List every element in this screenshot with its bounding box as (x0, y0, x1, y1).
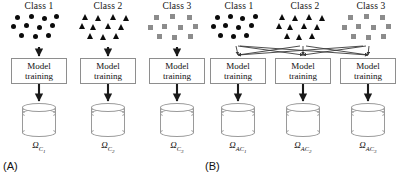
model-box-line2: training (289, 71, 317, 82)
circle-marker (50, 23, 55, 28)
model-box-line1: Model (291, 61, 315, 72)
class-cluster-1 (9, 13, 73, 47)
circle-marker (33, 34, 38, 39)
square-marker (193, 24, 198, 29)
circle-marker (244, 33, 249, 38)
triangle-marker (276, 23, 282, 29)
circle-marker (29, 14, 34, 19)
class-cluster-3 (341, 13, 404, 47)
class-title-2: Class 2 (77, 1, 139, 12)
model-training-box: Model training (11, 58, 67, 84)
omega-subsub: 3 (181, 149, 184, 154)
circle-marker (19, 33, 24, 38)
triangle-marker (284, 33, 290, 39)
triangle-marker (279, 14, 285, 20)
model-box-line1: Model (96, 61, 120, 72)
circle-marker (231, 34, 236, 39)
triangle-marker (90, 24, 96, 30)
datastore-label: ΩAC2 (268, 140, 338, 157)
panel-a: Class 1 Class 2 Class 3 (0, 0, 202, 181)
model-box-line1: Model (226, 61, 250, 72)
figure-root: Class 1 Class 2 Class 3 (0, 0, 404, 181)
model-training-box: Model training (210, 58, 266, 84)
omega-subsub: 1 (43, 149, 46, 154)
model-box-line2: training (224, 71, 252, 82)
datastore-label: ΩC1 (4, 140, 74, 157)
class-title-3: Class 3 (340, 1, 402, 12)
datastore-cylinder (91, 103, 125, 137)
panel-b: Class 1 Class 2 Class 3 (202, 0, 404, 181)
square-marker (364, 14, 369, 19)
model-training-box: Model training (275, 58, 331, 84)
cylinder-bottom (221, 128, 255, 137)
omega-subsub: 2 (112, 149, 115, 154)
circle-marker (218, 33, 223, 38)
square-marker (381, 34, 386, 39)
datastore-cylinder (160, 103, 194, 137)
circle-marker (211, 24, 216, 29)
triangle-marker (292, 15, 298, 21)
omega-subsub: 1 (244, 149, 247, 154)
square-marker (380, 15, 385, 20)
datastore-label: ΩAC3 (333, 140, 403, 157)
circle-marker (46, 33, 51, 38)
omega-sub: AC (236, 145, 244, 152)
class-title-1: Class 1 (208, 1, 270, 12)
square-marker (348, 15, 353, 20)
datastore-cylinder (22, 103, 56, 137)
square-marker (154, 15, 159, 20)
triangle-marker (110, 14, 116, 20)
square-marker (351, 34, 356, 39)
triangle-marker (105, 23, 111, 29)
model-box-line1: Model (356, 61, 380, 72)
triangle-marker (123, 15, 129, 21)
datastore-cylinder (221, 103, 255, 137)
square-marker (342, 25, 347, 30)
triangle-marker (118, 24, 124, 30)
circle-marker (249, 23, 254, 28)
triangle-marker (79, 23, 85, 29)
datastore-label: ΩC2 (73, 140, 143, 157)
class-cluster-2 (275, 13, 339, 47)
class-title-1: Class 1 (8, 1, 70, 12)
datastore-label: ΩAC1 (203, 140, 273, 157)
model-box-line2: training (94, 71, 122, 82)
omega-sub: AC (366, 145, 374, 152)
model-box-line1: Model (165, 61, 189, 72)
circle-marker (24, 23, 29, 28)
circle-marker (11, 24, 16, 29)
cylinder-top (22, 103, 56, 112)
cylinder-top (91, 103, 125, 112)
circle-marker (15, 15, 20, 20)
square-marker (157, 34, 162, 39)
triangle-marker (314, 24, 320, 30)
circle-marker (223, 23, 228, 28)
model-box-line2: training (25, 71, 53, 82)
circle-marker (253, 14, 258, 19)
square-marker (371, 25, 376, 30)
omega-sub: AC (301, 145, 309, 152)
circle-marker (240, 16, 245, 21)
class-title-3: Class 3 (146, 1, 208, 12)
omega-subsub: 3 (374, 149, 377, 154)
square-marker (386, 24, 391, 29)
circle-marker (54, 14, 59, 19)
square-marker (170, 14, 175, 19)
class-title-2: Class 2 (274, 1, 336, 12)
cylinder-bottom (286, 128, 320, 137)
circle-marker (228, 14, 233, 19)
panel-label-b: (B) (205, 160, 220, 173)
cylinder-top (351, 103, 385, 112)
square-marker (178, 25, 183, 30)
square-marker (172, 35, 177, 40)
square-marker (188, 34, 193, 39)
cylinder-top (221, 103, 255, 112)
cylinder-bottom (160, 128, 194, 137)
panel-label-a: (A) (3, 160, 18, 173)
cylinder-top (286, 103, 320, 112)
triangle-marker (82, 14, 88, 20)
triangle-marker (100, 34, 106, 40)
model-training-box: Model training (340, 58, 396, 84)
omega-subsub: 2 (309, 149, 312, 154)
cylinder-bottom (351, 128, 385, 137)
